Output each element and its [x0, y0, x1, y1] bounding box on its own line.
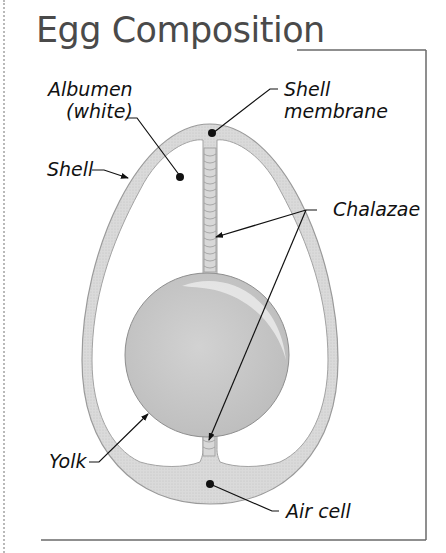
label-shell-membrane-line2: membrane — [284, 100, 388, 122]
label-shell-membrane-line1: Shell — [284, 78, 388, 100]
label-shell: Shell — [47, 158, 93, 180]
label-shell-membrane: Shell membrane — [284, 78, 388, 122]
label-chalazae: Chalazae — [333, 198, 420, 220]
label-yolk: Yolk — [49, 450, 86, 472]
label-albumen-line1: Albumen — [48, 78, 133, 100]
chalaza-upper — [204, 148, 216, 272]
label-air-cell: Air cell — [286, 500, 351, 522]
label-albumen: Albumen (white) — [48, 78, 133, 122]
yolk-shape — [125, 273, 289, 437]
label-albumen-line2: (white) — [48, 100, 133, 122]
